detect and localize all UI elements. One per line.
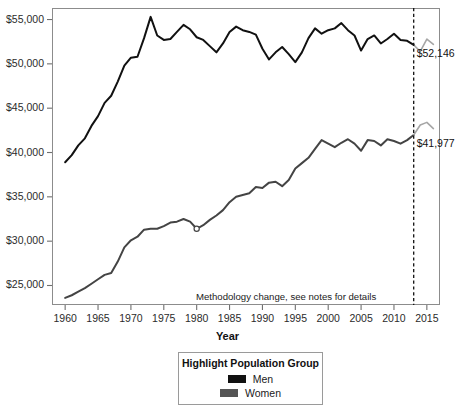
y-axis-tick-label: $40,000 [0, 147, 44, 158]
plot-area [52, 8, 440, 305]
y-axis-tick-label: $50,000 [0, 58, 44, 69]
methodology-note-text: Methodology change, see notes for detail… [196, 291, 376, 302]
y-axis-tick-label: $55,000 [0, 14, 44, 25]
y-axis-tick-label: $30,000 [0, 235, 44, 246]
legend-swatch-women [220, 389, 238, 397]
y-axis-tick-label: $25,000 [0, 279, 44, 290]
men-end-value-label: $52,146 [417, 47, 455, 59]
legend-item-women[interactable]: Women [220, 386, 281, 400]
y-axis-tick-label: $45,000 [0, 102, 44, 113]
earnings-line-chart: $25,000$30,000$35,000$40,000$45,000$50,0… [0, 0, 455, 407]
legend-label-men: Men [253, 373, 273, 385]
y-axis-tick-label: $35,000 [0, 191, 44, 202]
legend-swatch-men [228, 375, 246, 383]
x-axis-title: Year [0, 330, 455, 342]
women-end-value-label: $41,977 [417, 137, 455, 149]
legend-item-men[interactable]: Men [228, 372, 273, 386]
legend: Highlight Population Group Men Women [178, 352, 323, 405]
x-axis-tick-label: 2015 [407, 313, 447, 324]
legend-label-women: Women [245, 387, 281, 399]
legend-title: Highlight Population Group [182, 357, 319, 369]
